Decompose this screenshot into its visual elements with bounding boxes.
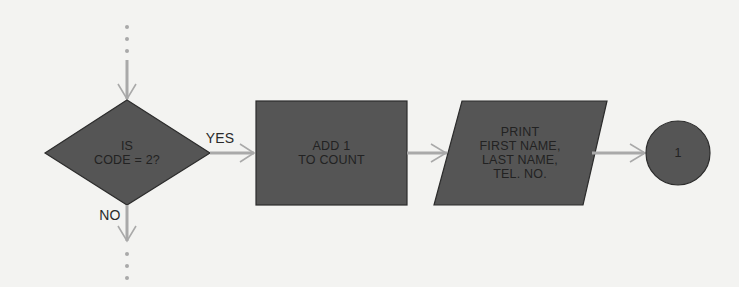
- process-text: ADD 1 TO COUNT: [256, 139, 407, 167]
- output-text: PRINT FIRST NAME, LAST NAME, TEL. NO.: [445, 125, 595, 181]
- no-label: NO: [92, 208, 128, 222]
- yes-label: YES: [200, 131, 240, 145]
- connector-text: 1: [658, 146, 698, 160]
- yes-connector: [210, 144, 254, 162]
- flowchart-canvas: IS CODE = 2? YES ADD 1 TO COUNT PRINT FI…: [0, 0, 739, 287]
- process-to-output-connector: [407, 144, 447, 162]
- incoming-connector: [118, 25, 136, 99]
- decision-text: IS CODE = 2?: [67, 139, 187, 167]
- output-to-connector-connector: [592, 144, 645, 162]
